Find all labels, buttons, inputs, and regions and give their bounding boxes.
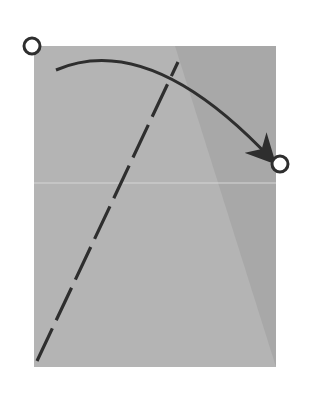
start-point-marker — [24, 38, 40, 54]
origami-diagram — [0, 0, 309, 395]
target-point-marker — [272, 156, 288, 172]
